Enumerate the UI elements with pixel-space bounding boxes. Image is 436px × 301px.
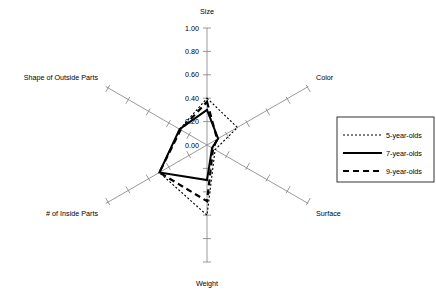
tick-color-100 — [306, 85, 310, 92]
legend-label-5-year-olds: 5-year-olds — [386, 131, 422, 140]
axis-line-color — [207, 87, 308, 146]
axis-line-surface — [207, 145, 308, 204]
tick-label-0-00: 0.00 — [185, 141, 199, 150]
tick-label-0-40: 0.40 — [185, 94, 199, 103]
axis-line-inside-parts — [106, 145, 207, 204]
radar-chart-svg: 0.00 0.20 0.40 0.60 0.80 1.00 Size Color… — [0, 0, 436, 301]
axis-label-outside-parts: Shape of Outside Parts — [24, 73, 99, 82]
legend-label-9-year-olds: 9-year-olds — [386, 167, 422, 176]
radial-tick-labels: 0.00 0.20 0.40 0.60 0.80 1.00 — [185, 24, 199, 150]
radar-axes — [106, 28, 309, 262]
axis-label-inside-parts: # of Inside Parts — [46, 209, 98, 218]
tick-label-0-60: 0.60 — [185, 70, 199, 79]
tick-label-0-80: 0.80 — [185, 47, 199, 56]
axis-label-color: Color — [316, 73, 334, 82]
axis-label-surface: Surface — [316, 209, 341, 218]
tick-surface-100 — [306, 198, 310, 205]
axis-category-labels: Size Color Surface Weight # of Inside Pa… — [24, 7, 341, 288]
chart-legend: 5-year-olds 7-year-olds 9-year-olds — [337, 117, 434, 182]
tick-label-1-00: 1.00 — [185, 24, 199, 33]
legend-label-7-year-olds: 7-year-olds — [386, 149, 422, 158]
axis-label-weight: Weight — [196, 279, 218, 288]
radar-tick-marks — [106, 28, 311, 262]
axis-label-size: Size — [200, 7, 214, 16]
radar-chart-figure: 0.00 0.20 0.40 0.60 0.80 1.00 Size Color… — [0, 0, 436, 301]
